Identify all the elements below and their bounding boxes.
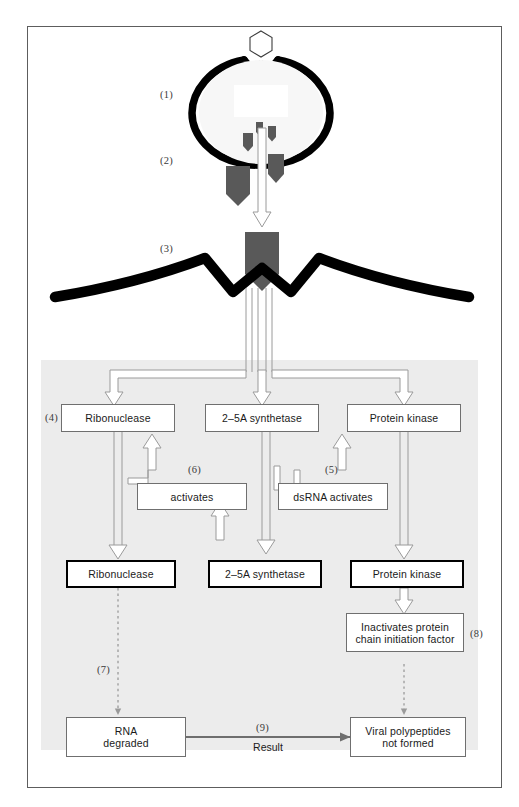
box-label: Ribonuclease: [85, 568, 156, 580]
figure-canvas: Ribonuclease 2–5A synthetase Protein kin…: [0, 0, 519, 807]
box-rna-degraded[interactable]: RNA degraded: [66, 717, 186, 757]
step-label-8: (8): [470, 628, 483, 639]
box-label: dsRNA activates: [290, 491, 375, 503]
box-label: activates: [168, 491, 217, 503]
virion-large: [226, 166, 250, 206]
dsrna-activates-arrows: [274, 434, 351, 490]
box-protein-kinase-active[interactable]: Protein kinase: [350, 560, 464, 588]
step-label-5: (5): [325, 464, 338, 475]
effect-line-1: Inactivates protein: [358, 621, 452, 633]
viral-line-1: Viral polypeptides: [362, 725, 453, 737]
box-label: Protein kinase: [370, 568, 445, 580]
rna-line-1: RNA: [112, 725, 141, 737]
box-protein-kinase-inactive[interactable]: Protein kinase: [347, 404, 461, 432]
step-label-1: (1): [160, 89, 173, 100]
box-label: 2–5A synthetase: [222, 568, 308, 580]
cell-nucleus-highlight: [234, 85, 288, 117]
box-ribonuclease-inactive[interactable]: Ribonuclease: [61, 404, 175, 432]
box-viral-polypeptides-not-formed[interactable]: Viral polypeptides not formed: [350, 717, 466, 757]
signal-trunk-lines: [246, 288, 272, 372]
box-ribonuclease-active[interactable]: Ribonuclease: [66, 560, 176, 588]
result-label: Result: [233, 741, 303, 753]
step-label-2: (2): [160, 155, 173, 166]
effect-line-2: chain initiation factor: [352, 633, 457, 645]
box-label: 2–5A synthetase: [219, 412, 305, 424]
box-synthetase-inactive[interactable]: 2–5A synthetase: [205, 404, 319, 432]
step-label-4: (4): [45, 412, 58, 423]
box-synthetase-active[interactable]: 2–5A synthetase: [208, 560, 322, 588]
virion-medium: [268, 154, 284, 183]
box-activates[interactable]: activates: [137, 483, 247, 510]
viral-line-2: not formed: [379, 737, 437, 749]
box-dsrna-activates[interactable]: dsRNA activates: [278, 483, 388, 510]
box-label: Ribonuclease: [82, 412, 153, 424]
box-inactivates-initiation-factor[interactable]: Inactivates protein chain initiation fac…: [346, 613, 464, 652]
step-label-9: (9): [256, 722, 269, 733]
hexagon-virion-icon: [250, 31, 272, 57]
step-label-7: (7): [97, 664, 110, 675]
enzyme-to-active-arrowheads: [109, 540, 413, 559]
kinase-to-effect-arrow: [395, 588, 413, 614]
rna-line-2: degraded: [100, 737, 152, 749]
enzyme-branch-arrows: [105, 370, 413, 406]
step-label-6: (6): [188, 464, 201, 475]
target-cell-group: [55, 232, 469, 297]
step-label-3: (3): [160, 243, 173, 254]
box-label: Protein kinase: [367, 412, 442, 424]
